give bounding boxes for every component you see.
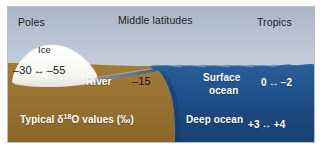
deep-ocean-band xyxy=(176,107,315,143)
ice-value-arrow-icon: ↔ xyxy=(34,65,45,76)
zone-label-poles: Poles xyxy=(18,17,45,28)
diagram-panel: Poles Middle latitudes Tropics Ice –30 ↔… xyxy=(7,6,315,143)
surface-ocean-value-range: 0 ↔ –2 xyxy=(261,73,292,89)
deep-ocean-value-low: +3 xyxy=(248,120,260,130)
ice-value-high: –55 xyxy=(47,65,66,76)
ice-value-range: –30 ↔ –55 xyxy=(13,61,65,77)
zone-label-tropics: Tropics xyxy=(257,17,292,28)
surface-ocean-value-arrow-icon: ↔ xyxy=(269,78,279,88)
figure-root: Poles Middle latitudes Tropics Ice –30 ↔… xyxy=(0,0,322,152)
deep-ocean-value-high: +4 xyxy=(274,120,286,130)
deep-ocean-value-arrow-icon: ↔ xyxy=(262,120,272,130)
deep-ocean-label: Deep ocean xyxy=(186,115,243,125)
ice-value-low: –30 xyxy=(13,65,32,76)
surface-ocean-value-high: –2 xyxy=(281,78,292,88)
surface-ocean-value-low: 0 xyxy=(261,78,267,88)
caption-prefix: Typical xyxy=(20,114,57,125)
caption-typical-delta18o: Typical δ18O values (‰) xyxy=(20,115,134,125)
ice-label: Ice xyxy=(38,45,51,55)
river-value: –15 xyxy=(132,76,151,87)
surface-ocean-label-line2: ocean xyxy=(209,86,238,96)
deep-ocean-value-range: +3 ↔ +4 xyxy=(248,115,285,131)
zone-label-middle-latitudes: Middle latitudes xyxy=(118,15,193,26)
river-label: River xyxy=(86,77,112,87)
surface-ocean-label-line1: Surface xyxy=(203,73,240,83)
caption-suffix: values (‰) xyxy=(79,114,133,125)
